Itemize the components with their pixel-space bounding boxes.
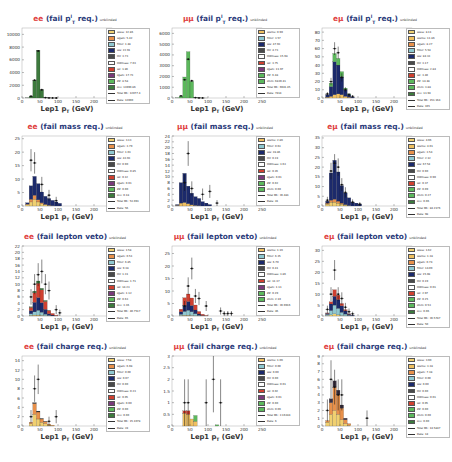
svg-text:100: 100 — [204, 207, 212, 212]
legend-swatch-icon — [108, 407, 115, 412]
svg-text:3: 3 — [167, 354, 170, 359]
legend-label: zgam: 1.11 — [267, 286, 282, 289]
svg-text:5: 5 — [167, 301, 170, 306]
legend-label: ttV: 0.24 — [267, 157, 278, 160]
legend-swatch-icon — [258, 395, 265, 400]
svg-text:12: 12 — [15, 275, 21, 280]
legend: wwss: 12.86wgam: 5.42fitter: 1.48ww: 22.… — [106, 28, 150, 104]
svg-text:8: 8 — [17, 288, 20, 293]
unblinded-tag: unblinded — [406, 126, 423, 130]
svg-text:15: 15 — [165, 276, 171, 281]
selection-label: (fail charge req.) — [34, 342, 107, 351]
svg-text:50: 50 — [315, 54, 321, 59]
channel-label: eμ — [333, 14, 343, 23]
legend-entry: Data: 56 — [107, 205, 149, 211]
legend-entry: Data: 7414 — [257, 91, 299, 97]
legend-swatch-icon — [408, 73, 415, 78]
legend-swatch-icon — [408, 85, 415, 90]
svg-text:60: 60 — [315, 46, 321, 51]
legend-swatch-icon — [258, 144, 265, 149]
svg-text:100: 100 — [54, 317, 62, 322]
legend-swatch-icon — [408, 254, 415, 259]
svg-text:10000: 10000 — [7, 32, 21, 37]
svg-text:20: 20 — [15, 250, 21, 255]
svg-text:25: 25 — [165, 251, 171, 256]
channel-label: μμ — [174, 342, 185, 351]
legend-swatch-icon — [408, 42, 415, 47]
svg-text:200: 200 — [390, 317, 398, 322]
svg-text:100: 100 — [54, 427, 62, 432]
panel-ee_fail_veto: ee (fail lepton veto)unblinded0246810121… — [0, 230, 150, 342]
legend-swatch-icon — [408, 187, 415, 192]
svg-text:5: 5 — [17, 190, 20, 195]
legend-label: Total MC: 84.2176 — [417, 207, 440, 210]
legend: wwmu: 1.16fitter: 6.35ww: 6.70ttV: 0.41t… — [256, 246, 300, 316]
svg-text:15: 15 — [15, 163, 21, 168]
svg-text:20: 20 — [315, 165, 321, 170]
legend-swatch-icon — [408, 61, 415, 66]
svg-text:200: 200 — [390, 99, 398, 104]
legend-swatch-icon — [108, 364, 115, 369]
legend-label: fitter: 6.35 — [267, 255, 281, 258]
legend-label: ttWmass: 0.23 — [117, 390, 136, 393]
legend-label: wz: 1.86 — [117, 68, 128, 71]
svg-text:18: 18 — [15, 256, 21, 261]
legend-swatch-icon — [108, 156, 115, 161]
legend-swatch-icon — [408, 162, 415, 167]
svg-text:2: 2 — [17, 307, 20, 312]
legend-swatch-icon — [258, 382, 265, 387]
svg-text:1: 1 — [317, 416, 320, 421]
svg-text:250: 250 — [258, 99, 266, 104]
svg-text:6: 6 — [17, 396, 20, 401]
svg-text:0: 0 — [171, 427, 174, 432]
unblinded-tag: unblinded — [109, 346, 126, 350]
legend-label: wz: 11.37 — [267, 280, 280, 283]
svg-text:50: 50 — [337, 207, 343, 212]
legend-label: wwmu: 4.01 — [417, 145, 433, 148]
legend-label: ZZ: 0.00 — [267, 402, 278, 405]
svg-text:18: 18 — [165, 151, 171, 156]
selection-label: (fail p — [344, 14, 371, 23]
legend-label: wgam: 3.54 — [417, 151, 432, 154]
svg-text:12: 12 — [15, 368, 21, 373]
unblinded-tag: unblinded — [260, 346, 277, 350]
legend-swatch-icon — [408, 364, 415, 369]
svg-text:150: 150 — [222, 427, 230, 432]
legend-swatch-icon — [408, 358, 415, 363]
legend-label: ttWmass: 0.01 — [417, 286, 436, 289]
legend-swatch-icon — [108, 358, 115, 363]
legend-label: ttV: 0.19 — [417, 280, 428, 283]
total-mc-line-icon — [408, 208, 415, 209]
svg-text:14: 14 — [15, 269, 21, 274]
legend-swatch-icon — [108, 260, 115, 265]
legend-swatch-icon — [108, 401, 115, 406]
legend-entry: Data: 6 — [257, 419, 299, 425]
svg-text:100: 100 — [54, 207, 62, 212]
svg-text:50: 50 — [37, 427, 43, 432]
x-axis-label: Lep1 pT (GeV) — [172, 105, 262, 114]
legend-label: ZZ: 14.48 — [417, 80, 430, 83]
legend-label: wwss: 7.58 — [117, 359, 131, 362]
x-axis-label: Lep1 pT (GeV) — [322, 323, 412, 332]
svg-text:50: 50 — [187, 427, 193, 432]
svg-text:150: 150 — [72, 207, 80, 212]
svg-text:200: 200 — [90, 207, 98, 212]
legend-entry: Data: 50 — [407, 321, 449, 327]
legend-swatch-icon — [258, 156, 265, 161]
svg-text:7: 7 — [317, 369, 320, 374]
svg-text:100: 100 — [354, 207, 362, 212]
legend-label: wwmu: 1.06 — [267, 359, 283, 362]
legend-swatch-icon — [258, 358, 265, 363]
legend-swatch-icon — [108, 254, 115, 259]
svg-text:2: 2 — [317, 408, 320, 413]
legend-swatch-icon — [108, 138, 115, 143]
legend-label: fitter: 0.00 — [417, 377, 431, 380]
legend-label: zgam: 1.12 — [117, 292, 132, 295]
legend-label: wz: 0.02 — [267, 390, 278, 393]
legend-label: Data: 12000 — [117, 99, 133, 102]
x-axis-label: Lep1 pT (GeV) — [22, 213, 112, 222]
channel-label: μμ — [183, 14, 194, 23]
legend-swatch-icon — [258, 260, 265, 265]
panel-title: eμ (fail lepton veto)unblinded — [300, 232, 450, 241]
legend-label: wgam: 3.79 — [117, 145, 132, 148]
